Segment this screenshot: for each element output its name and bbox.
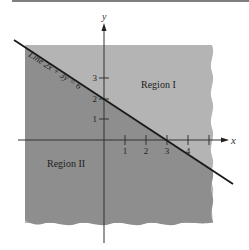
y-tick-label: 1	[93, 114, 98, 124]
y-axis-arrow-icon	[102, 23, 107, 31]
inequality-diagram: x y 1 2 3 4 1 2 3	[0, 0, 249, 250]
x-axis-arrow-icon	[221, 138, 229, 143]
y-tick-label: 2	[93, 94, 98, 104]
region-1-label: Region I	[141, 79, 176, 90]
x-axis-label: x	[230, 134, 236, 146]
y-tick-labels: 1 2 3	[93, 73, 98, 124]
x-tick-label: 1	[123, 146, 128, 156]
region-2-label: Region II	[47, 158, 85, 169]
y-tick-label: 3	[93, 73, 98, 83]
y-axis-label: y	[101, 11, 107, 22]
x-tick-label: 2	[144, 146, 149, 156]
x-tick-label: 3	[165, 146, 170, 156]
